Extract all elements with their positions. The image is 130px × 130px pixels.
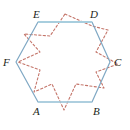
vertex-label-E: E bbox=[33, 9, 40, 20]
vertex-label-F: F bbox=[3, 57, 10, 68]
vertex-label-A: A bbox=[33, 106, 40, 117]
vertex-label-B: B bbox=[93, 106, 100, 117]
figure-canvas bbox=[0, 0, 130, 130]
vertex-label-D: D bbox=[90, 9, 98, 20]
dashed-overlay-outline bbox=[18, 14, 118, 110]
hexagon-figure: A B C D E F bbox=[0, 0, 130, 130]
vertex-label-C: C bbox=[114, 57, 121, 68]
